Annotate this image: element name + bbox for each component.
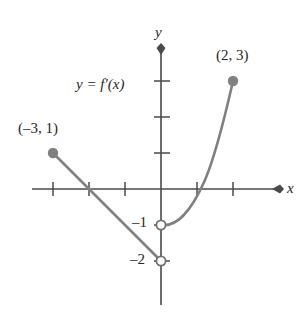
endpoint-right-label: (2, 3) bbox=[216, 48, 249, 63]
filled-point-left bbox=[48, 148, 58, 158]
open-point-neg-one bbox=[156, 220, 165, 229]
curved-branch-path bbox=[161, 81, 233, 225]
y-axis-label: y bbox=[155, 25, 162, 40]
y-axis-ticks bbox=[154, 81, 170, 261]
y-tick-label-neg-one: –1 bbox=[132, 215, 147, 230]
linear-branch-path bbox=[53, 153, 161, 261]
y-axis-arrow-icon bbox=[157, 43, 166, 55]
open-point-neg-two bbox=[156, 256, 165, 265]
endpoint-left-label: (–3, 1) bbox=[18, 121, 58, 136]
curve-equation-label: y = f′(x) bbox=[76, 77, 124, 92]
graph-canvas bbox=[0, 0, 304, 322]
filled-point-right bbox=[228, 76, 238, 86]
x-axis-arrow-icon bbox=[272, 185, 284, 194]
x-axis-label: x bbox=[287, 181, 294, 196]
y-tick-label-neg-two: –2 bbox=[130, 252, 145, 267]
derivative-graph-figure: y x (2, 3) (–3, 1) y = f′(x) –1 –2 bbox=[0, 0, 304, 322]
